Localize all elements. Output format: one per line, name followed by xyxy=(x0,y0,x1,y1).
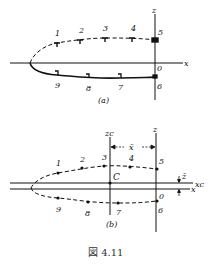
x-axis-label: x xyxy=(184,59,189,68)
z-axis-label: z xyxy=(151,6,157,15)
origin-label: 0 xyxy=(157,64,162,73)
point-label-1: 1 xyxy=(55,29,60,38)
zbar-dimension xyxy=(178,176,181,196)
point-label-5: 5 xyxy=(158,28,163,37)
point-label-5: 5 xyxy=(159,157,164,166)
point-label-4: 4 xyxy=(128,154,134,163)
point-label-8: 8 xyxy=(86,84,91,93)
upper-surface-dashed xyxy=(31,166,157,188)
panel-b-label: (b) xyxy=(106,220,117,229)
point-label-9: 9 xyxy=(55,81,60,90)
point-label-2: 2 xyxy=(78,26,84,35)
point-label-1: 1 xyxy=(56,159,61,168)
zc-axis-label: zc xyxy=(104,129,114,138)
panel-b: xc x zc z x̄ z̄ xyxy=(10,125,205,232)
lower-surface-dashed xyxy=(31,188,157,203)
upper-markers xyxy=(54,38,158,47)
point-label-7: 7 xyxy=(118,83,124,92)
centroid-point xyxy=(108,181,111,184)
zbar-label: z̄ xyxy=(181,172,187,181)
centroid-label: C xyxy=(113,172,120,182)
figure-4-11: x z 1 2 3 4 5 9 8 7 6 0 xyxy=(0,0,218,264)
xbar-label: x̄ xyxy=(129,143,134,152)
point-label-3: 3 xyxy=(103,24,108,33)
xc-axis-label: xc xyxy=(195,180,205,189)
point-label-8: 8 xyxy=(85,209,90,218)
z-axis-label: z xyxy=(152,125,158,134)
panel-a: x z 1 2 3 4 5 9 8 7 6 0 xyxy=(10,6,189,105)
point-label-6: 6 xyxy=(158,206,163,215)
figure-caption: 図 4.11 xyxy=(88,247,123,258)
upper-surface-dashed xyxy=(30,38,155,63)
point-label-3: 3 xyxy=(102,153,107,162)
point-label-2: 2 xyxy=(79,155,85,164)
point-label-7: 7 xyxy=(116,208,122,217)
panel-a-label: (a) xyxy=(98,96,109,105)
point-label-4: 4 xyxy=(130,24,136,33)
point-label-9: 9 xyxy=(56,205,61,214)
point-label-6: 6 xyxy=(157,82,162,91)
origin-label: 0 xyxy=(159,192,164,201)
x-axis-label: x xyxy=(191,185,196,194)
lower-surface-solid xyxy=(30,63,155,78)
